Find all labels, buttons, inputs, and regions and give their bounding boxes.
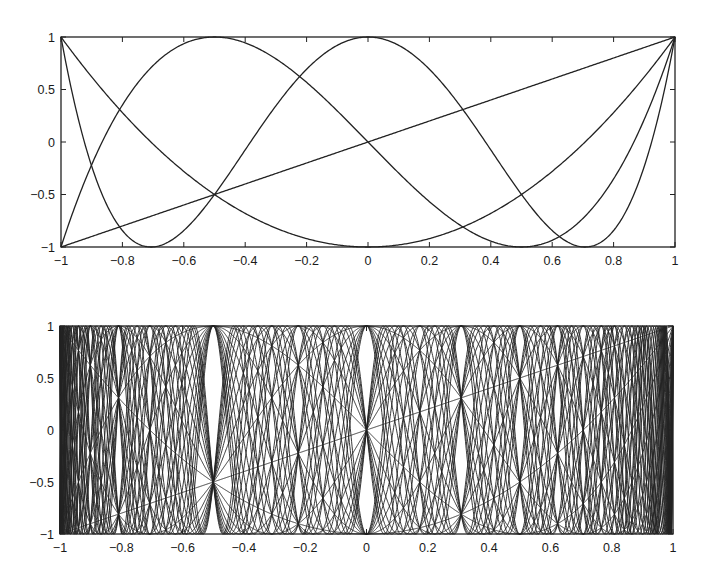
x-tick-label: −0.6 [171, 254, 196, 268]
x-tick-label: 0.4 [480, 541, 497, 555]
x-tick-label: 0.2 [421, 254, 438, 268]
x-tick-label: 0.8 [603, 541, 620, 555]
curves [60, 326, 673, 534]
y-tick-label: 1 [48, 31, 55, 45]
y-tick-label: −1 [40, 528, 54, 542]
bottom-chebyshev-plot: −1−0.8−0.6−0.4−0.200.20.40.60.81 10.50−0… [29, 320, 676, 556]
x-tick-label: −0.8 [109, 541, 134, 555]
curves [61, 37, 675, 247]
x-tick-label: 0.4 [482, 254, 499, 268]
x-tick-label: 1 [672, 254, 679, 268]
x-tick-label: −0.2 [293, 541, 318, 555]
y-tick-label: 1 [47, 320, 54, 334]
x-tick-label: −0.4 [232, 541, 257, 555]
y-axis-ticks: 10.50−0.5−1 [30, 31, 675, 255]
x-tick-label: −0.6 [170, 541, 195, 555]
x-tick-label: −1 [54, 254, 68, 268]
x-tick-label: −0.2 [294, 254, 319, 268]
x-tick-label: −0.8 [110, 254, 135, 268]
figure: −1−0.8−0.6−0.4−0.200.20.40.60.81 10.50−0… [0, 0, 712, 577]
y-tick-label: 0 [47, 424, 54, 438]
top-chebyshev-plot: −1−0.8−0.6−0.4−0.200.20.40.60.81 10.50−0… [30, 31, 678, 269]
x-tick-label: 0 [365, 254, 372, 268]
x-tick-label: 1 [670, 541, 677, 555]
y-tick-label: −0.5 [30, 188, 55, 202]
y-tick-label: 0.5 [38, 83, 55, 97]
y-tick-label: −0.5 [29, 476, 54, 490]
x-tick-label: 0.6 [544, 254, 561, 268]
x-tick-label: −1 [53, 541, 67, 555]
x-tick-label: 0.8 [605, 254, 622, 268]
y-tick-label: 0 [48, 136, 55, 150]
y-tick-label: −1 [41, 241, 55, 255]
x-tick-label: 0.6 [542, 541, 559, 555]
x-tick-label: 0.2 [419, 541, 436, 555]
x-tick-label: −0.4 [233, 254, 258, 268]
x-tick-label: 0 [363, 541, 370, 555]
y-tick-label: 0.5 [37, 372, 54, 386]
